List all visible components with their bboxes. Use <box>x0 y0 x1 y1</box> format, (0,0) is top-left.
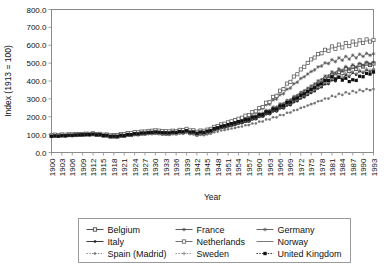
legend-label: Italy <box>108 237 125 247</box>
x-tick-label: 1939 <box>183 158 192 176</box>
x-tick-label: 1921 <box>120 158 129 176</box>
y-tick-label: 600.0 <box>26 41 47 50</box>
x-axis-title: Year <box>204 192 221 202</box>
x-tick-label: 1942 <box>193 158 202 176</box>
y-tick-label: 400.0 <box>26 77 47 86</box>
x-tick-label: 1960 <box>255 158 264 176</box>
x-tick-label: 1981 <box>328 158 337 176</box>
x-tick-label: 1948 <box>214 158 223 176</box>
legend-label: United Kingdom <box>278 249 342 259</box>
y-tick-label: 100.0 <box>26 131 47 140</box>
x-tick-label: 1927 <box>141 158 150 176</box>
legend-label: Netherlands <box>197 237 246 247</box>
chart-legend: BelgiumFranceGermanyItalyNetherlandsNorw… <box>79 219 351 263</box>
y-tick-label: 800.0 <box>26 6 47 15</box>
legend-label: Sweden <box>197 249 230 259</box>
x-tick-label: 1963 <box>266 158 275 176</box>
x-tick-label: 1918 <box>110 158 119 176</box>
x-tick-label: 1912 <box>89 158 98 176</box>
x-tick-label: 1957 <box>245 158 254 176</box>
legend-label: France <box>197 225 225 235</box>
x-tick-label: 1978 <box>318 158 327 176</box>
x-tick-label: 1951 <box>224 158 233 176</box>
series-germany <box>50 52 376 138</box>
x-tick-label: 1966 <box>276 158 285 176</box>
series-layer <box>50 38 376 139</box>
chart-container: 0.0100.0200.0300.0400.0500.0600.0700.080… <box>0 0 390 268</box>
x-tick-label: 1987 <box>349 158 358 176</box>
x-tick-label: 1954 <box>234 158 243 176</box>
x-tick-label: 1945 <box>203 158 212 176</box>
x-tick-label: 1903 <box>58 158 67 176</box>
x-tick-label: 1930 <box>151 158 160 176</box>
legend-label: Spain (Madrid) <box>108 249 167 259</box>
y-tick-label: 200.0 <box>26 113 47 122</box>
y-tick-label: 700.0 <box>26 23 47 32</box>
x-tick-label: 1900 <box>48 158 57 176</box>
x-tick-label: 1990 <box>359 158 368 176</box>
y-tick-label: 500.0 <box>26 59 47 68</box>
x-tick-label: 1909 <box>79 158 88 176</box>
x-tick-label: 1933 <box>162 158 171 176</box>
x-tick-label: 1969 <box>286 158 295 176</box>
x-axis: 1900190319061909191219151918192119241927… <box>48 153 379 177</box>
y-tick-label: 0.0 <box>35 149 47 158</box>
series-netherlands <box>50 38 375 137</box>
y-tick-label: 300.0 <box>26 95 47 104</box>
x-tick-label: 1906 <box>68 158 77 176</box>
series-line <box>52 53 374 135</box>
legend-label: Belgium <box>108 225 141 235</box>
x-tick-label: 1984 <box>338 158 347 176</box>
x-tick-label: 1975 <box>307 158 316 176</box>
x-tick-label: 1936 <box>172 158 181 176</box>
x-tick-label: 1993 <box>370 158 379 176</box>
y-axis: 0.0100.0200.0300.0400.0500.0600.0700.080… <box>26 6 51 158</box>
series-line <box>52 39 374 135</box>
x-tick-label: 1924 <box>131 158 140 176</box>
y-axis-title: Index (1913 = 100) <box>3 45 13 117</box>
x-tick-label: 1972 <box>297 158 306 176</box>
legend-label: Norway <box>278 237 309 247</box>
x-tick-label: 1915 <box>99 158 108 176</box>
legend-label: Germany <box>278 225 316 235</box>
line-chart: 0.0100.0200.0300.0400.0500.0600.0700.080… <box>0 0 390 268</box>
